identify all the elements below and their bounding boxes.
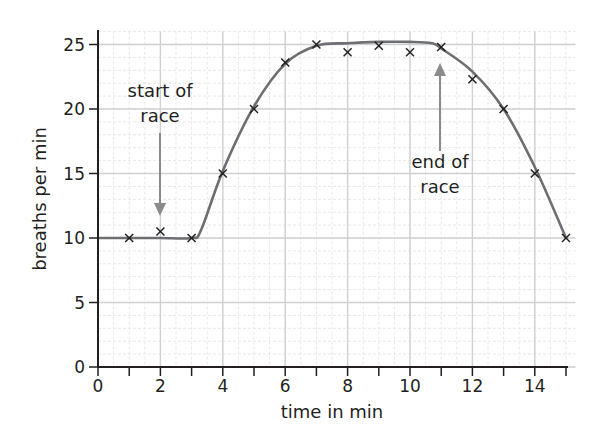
x-tick-label: 8 xyxy=(342,376,353,396)
breathing-rate-chart: start of race end of race 02468101214 05… xyxy=(0,0,604,446)
end-of-race-label-line1: end of xyxy=(412,151,470,172)
x-tick-label: 14 xyxy=(524,376,546,396)
x-tick-label: 0 xyxy=(93,376,104,396)
y-tick-label: 20 xyxy=(63,99,85,119)
x-axis-title: time in min xyxy=(281,401,383,422)
start-arrow-icon xyxy=(154,133,166,216)
x-tick-label: 2 xyxy=(155,376,166,396)
x-tick-label: 6 xyxy=(280,376,291,396)
x-tick-label: 12 xyxy=(462,376,484,396)
x-tick-label: 10 xyxy=(399,376,421,396)
y-tick-label: 10 xyxy=(63,228,85,248)
y-axis-title: breaths per min xyxy=(29,127,50,271)
x-tick-label: 4 xyxy=(217,376,228,396)
y-axis-ticks: 0510152025 xyxy=(63,35,98,378)
start-of-race-label-line1: start of xyxy=(128,80,194,101)
end-arrow-icon xyxy=(434,63,446,151)
x-axis-ticks: 02468101214 xyxy=(93,367,566,396)
annotations: start of race end of race xyxy=(128,63,470,216)
y-tick-label: 0 xyxy=(74,357,85,377)
y-tick-label: 5 xyxy=(74,293,85,313)
y-tick-label: 25 xyxy=(63,35,85,55)
end-of-race-label-line2: race xyxy=(420,176,459,197)
start-of-race-label-line2: race xyxy=(140,105,179,126)
y-tick-label: 15 xyxy=(63,164,85,184)
